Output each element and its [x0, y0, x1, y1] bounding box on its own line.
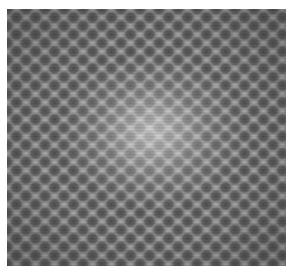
micrograph-image — [7, 9, 286, 266]
scan-noise — [7, 9, 286, 266]
